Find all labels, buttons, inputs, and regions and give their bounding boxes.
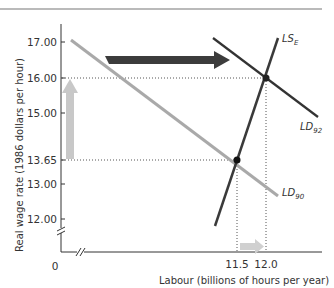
y-tick-1365: 13.65 bbox=[27, 154, 57, 166]
y-tick-16: 16.00 bbox=[27, 72, 57, 84]
ld90-label: LD90 bbox=[282, 187, 305, 201]
x-tick-115: 11.5 bbox=[225, 258, 248, 270]
y-tick-15: 15.00 bbox=[27, 107, 57, 119]
x-tick-120: 12.0 bbox=[254, 258, 277, 270]
y-tick-12: 12.00 bbox=[27, 213, 57, 225]
lse-label: LSE bbox=[282, 33, 299, 47]
wage-increase-arrow-icon bbox=[62, 79, 78, 159]
ld92-label: LD92 bbox=[300, 121, 323, 135]
y-ticks bbox=[61, 42, 65, 219]
y-axis-label: Real wage rate (1986 dollars per hour) bbox=[14, 58, 25, 252]
equilibrium-1992-point bbox=[263, 75, 270, 82]
y-tick-13: 13.00 bbox=[27, 178, 57, 190]
lse-curve bbox=[215, 38, 278, 226]
demand-shift-arrow-icon bbox=[105, 51, 230, 69]
x-axis-break-icon bbox=[76, 248, 85, 256]
equilibrium-1990-point bbox=[234, 157, 241, 164]
x-axis-label: Labour (billions of hours per year) bbox=[159, 275, 329, 286]
x-origin-label: 0 bbox=[52, 260, 59, 272]
labour-market-chart: Real wage rate (1986 dollars per hour) 1… bbox=[0, 0, 334, 288]
y-tick-17: 17.00 bbox=[27, 36, 57, 48]
